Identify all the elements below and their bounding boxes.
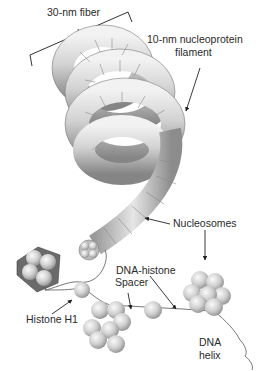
nucleosome-box [17,247,60,292]
label-30nm-fiber: 30-nm fiber [47,6,100,18]
label-histone-h1: Histone H1 [26,313,78,325]
histone-h1-bead [74,282,90,298]
label-10nm-filament-1: 10-nm nucleoprotein [147,33,243,45]
label-dna-histone: DNA-histone [116,264,176,276]
label-helix: helix [199,349,221,361]
label-dna: DNA [199,336,221,348]
label-10nm-filament-2: filament [175,46,212,58]
label-nucleosomes: Nucleosomes [173,217,237,229]
nucleosome-cluster-lower [83,301,131,353]
label-spacer: Spacer [115,276,148,288]
spacer-bead [144,301,162,319]
